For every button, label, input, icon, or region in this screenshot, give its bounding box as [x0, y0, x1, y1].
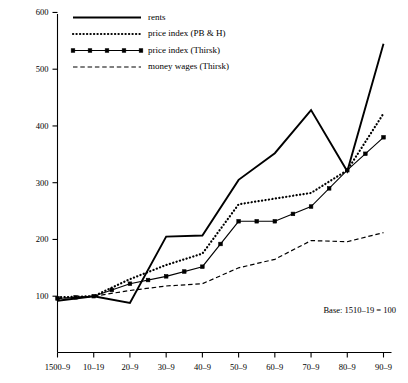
- x-tick-label: 20–9: [121, 362, 138, 372]
- series-marker-thirsk: [128, 282, 132, 286]
- x-axis-ticks: 1500–910–1920–930–940–950–960–970–980–99…: [45, 353, 392, 372]
- y-axis-ticks: 100200300400500600: [36, 7, 58, 301]
- x-tick-label: 60–9: [266, 362, 283, 372]
- legend-item-pbh: price index (PB & H): [73, 28, 225, 38]
- x-tick-label: 30–9: [158, 362, 175, 372]
- chart-container: 100200300400500600 1500–910–1920–930–940…: [0, 0, 408, 383]
- series-line-price-index-thirsk: [58, 137, 384, 298]
- x-tick-label: 40–9: [194, 362, 211, 372]
- x-tick-label: 50–9: [230, 362, 247, 372]
- series-marker-thirsk: [273, 219, 277, 223]
- series-line-price-index-pbh: [58, 113, 384, 297]
- series-marker-thirsk: [182, 270, 186, 274]
- series-marker-thirsk: [364, 152, 368, 156]
- series-marker-thirsk: [327, 187, 331, 191]
- series-marker-thirsk: [237, 219, 241, 223]
- series-marker-thirsk: [201, 265, 205, 269]
- legend-item-thirsk: price index (Thirsk): [71, 45, 220, 55]
- x-tick-label: 90–9: [375, 362, 392, 372]
- legend-label-pbh: price index (PB & H): [148, 28, 225, 38]
- line-chart: 100200300400500600 1500–910–1920–930–940…: [0, 0, 408, 383]
- legend-marker-thirsk: [71, 49, 75, 53]
- base-note-text: Base: 1510–19 = 100: [323, 305, 396, 315]
- base-note: Base: 1510–19 = 100: [323, 305, 396, 315]
- legend-label-wages: money wages (Thirsk): [148, 61, 229, 71]
- legend-marker-thirsk: [105, 49, 109, 53]
- legend-label-rents: rents: [148, 12, 166, 22]
- legend-marker-thirsk: [88, 49, 92, 53]
- series-line-rents: [58, 44, 384, 303]
- series-marker-thirsk: [309, 205, 313, 209]
- legend-marker-thirsk: [122, 49, 126, 53]
- legend-label-thirsk: price index (Thirsk): [148, 45, 220, 55]
- y-tick-label: 100: [36, 291, 49, 301]
- y-tick-label: 200: [36, 234, 49, 244]
- x-tick-label: 70–9: [303, 362, 320, 372]
- series-marker-thirsk: [255, 219, 259, 223]
- series-marker-thirsk: [291, 212, 295, 216]
- x-tick-label: 10–19: [83, 362, 104, 372]
- legend-item-wages: money wages (Thirsk): [73, 61, 229, 71]
- legend-item-rents: rents: [73, 12, 166, 22]
- y-tick-label: 500: [36, 64, 49, 74]
- x-tick-label: 1500–9: [45, 362, 71, 372]
- y-tick-label: 600: [36, 7, 49, 17]
- series-marker-thirsk: [219, 242, 223, 246]
- series-marker-thirsk: [382, 136, 386, 140]
- series-marker-thirsk: [164, 275, 168, 279]
- series-marker-thirsk: [146, 278, 150, 282]
- y-tick-label: 400: [36, 121, 49, 131]
- series-marker-thirsk: [345, 168, 349, 172]
- chart-legend: rentsprice index (PB & H)price index (Th…: [71, 12, 229, 72]
- data-series-group: [56, 44, 386, 303]
- legend-marker-thirsk: [139, 49, 143, 53]
- x-tick-label: 80–9: [339, 362, 356, 372]
- y-tick-label: 300: [36, 178, 49, 188]
- series-marker-thirsk: [110, 288, 114, 292]
